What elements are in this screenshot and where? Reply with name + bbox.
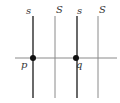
label-s1: s (26, 5, 31, 16)
label-s2: s (77, 5, 82, 16)
label-q: q (76, 59, 82, 70)
point-p (30, 55, 36, 61)
diagram-canvas: s S s S p q (0, 0, 120, 103)
label-S2: S (99, 4, 106, 15)
label-S1: S (56, 4, 63, 15)
label-p: p (21, 59, 28, 70)
